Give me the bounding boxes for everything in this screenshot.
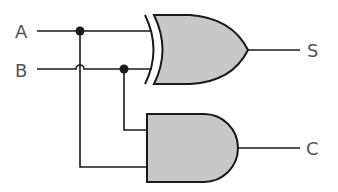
and-body xyxy=(147,114,238,182)
input-label-a: A xyxy=(15,21,28,42)
wire-b-to-and xyxy=(124,69,147,130)
output-label-s: S xyxy=(307,40,318,61)
half-adder-diagram: A B S C xyxy=(0,0,338,192)
xor-back-curve xyxy=(145,15,154,84)
and-gate xyxy=(147,114,238,182)
junction-b xyxy=(120,65,129,74)
xor-body xyxy=(154,15,248,84)
junction-a xyxy=(76,27,85,36)
wire-a-to-and xyxy=(80,31,147,167)
wire-b xyxy=(37,65,152,69)
output-label-c: C xyxy=(306,138,319,159)
input-label-b: B xyxy=(15,60,27,81)
xor-gate xyxy=(145,15,248,84)
